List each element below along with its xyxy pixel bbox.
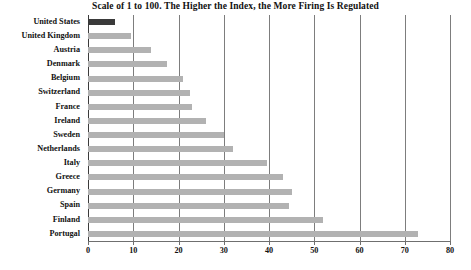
gridline-80: [450, 15, 451, 241]
bar: [88, 174, 283, 180]
x-tick-label: 30: [220, 246, 228, 255]
category-label: Italy: [64, 159, 80, 167]
category-label: Austria: [54, 46, 80, 54]
bar: [88, 189, 292, 195]
category-label: Switzerland: [38, 88, 80, 96]
category-label: Greece: [56, 173, 80, 181]
x-tick-0: [88, 241, 89, 245]
bar: [88, 231, 418, 237]
x-tick-10: [133, 241, 134, 245]
bar: [88, 33, 131, 39]
gridline-60: [360, 15, 361, 241]
category-label: Denmark: [47, 60, 80, 68]
x-tick-label: 80: [446, 246, 454, 255]
x-tick-40: [269, 241, 270, 245]
category-label: Spain: [60, 201, 80, 209]
x-tick-label: 50: [310, 246, 318, 255]
bar: [88, 104, 192, 110]
category-label: Portugal: [50, 230, 80, 238]
category-label: Sweden: [53, 131, 80, 139]
bar: [88, 47, 151, 53]
gridline-50: [314, 15, 315, 241]
category-label: United States: [33, 18, 80, 26]
x-tick-50: [314, 241, 315, 245]
bar: [88, 203, 289, 209]
plot-area: [88, 15, 450, 241]
bar: [88, 19, 115, 25]
x-tick-label: 10: [129, 246, 137, 255]
bar: [88, 217, 323, 223]
x-tick-60: [360, 241, 361, 245]
x-tick-label: 60: [355, 246, 363, 255]
bar: [88, 76, 183, 82]
x-tick-label: 0: [86, 246, 90, 255]
category-label: France: [55, 103, 80, 111]
chart-title: Scale of 1 to 100. The Higher the Index,…: [0, 1, 471, 11]
gridline-70: [405, 15, 406, 241]
bar: [88, 160, 267, 166]
x-tick-70: [405, 241, 406, 245]
x-tick-label: 40: [265, 246, 273, 255]
category-label: United Kingdom: [22, 32, 80, 40]
category-label: Germany: [47, 187, 80, 195]
bar: [88, 146, 233, 152]
bar: [88, 132, 224, 138]
category-label: Belgium: [51, 74, 80, 82]
x-tick-label: 20: [174, 246, 182, 255]
bar: [88, 118, 206, 124]
x-tick-label: 70: [401, 246, 409, 255]
category-axis-labels: United StatesUnited KingdomAustriaDenmar…: [0, 15, 84, 241]
bar: [88, 90, 190, 96]
x-tick-80: [450, 241, 451, 245]
bar: [88, 61, 167, 67]
category-label: Netherlands: [37, 145, 80, 153]
category-label: Finland: [53, 216, 80, 224]
category-label: Ireland: [54, 117, 80, 125]
x-tick-30: [224, 241, 225, 245]
x-tick-20: [179, 241, 180, 245]
chart-root: Scale of 1 to 100. The Higher the Index,…: [0, 0, 471, 270]
